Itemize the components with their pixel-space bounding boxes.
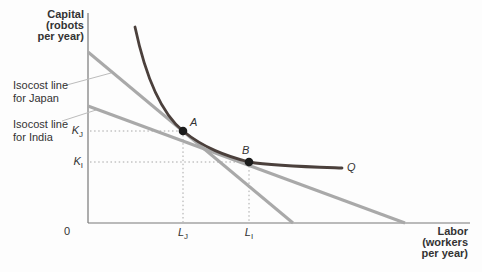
- x-axis-title: Labor (workers per year): [390, 226, 468, 259]
- isoquant-isocost-figure: Capital (robots per year) Labor (workers…: [0, 0, 482, 272]
- isoquant-q-label: Q: [347, 161, 356, 173]
- japan-callout-line: [63, 73, 111, 86]
- k-india-label: KI: [52, 155, 83, 167]
- k-japan-sub: J: [79, 130, 83, 139]
- isoquant-curve: [135, 27, 342, 168]
- isocost-japan-label: Isocost line for Japan: [13, 79, 68, 105]
- origin-label: 0: [60, 225, 74, 237]
- l-japan-sub: J: [184, 232, 188, 241]
- k-india-base: K: [73, 155, 80, 167]
- point-a-dot: [179, 127, 188, 136]
- k-india-sub: I: [81, 161, 83, 170]
- k-japan-label: KJ: [52, 124, 83, 136]
- point-a-label: A: [190, 116, 197, 128]
- l-japan-label: LJ: [168, 226, 198, 238]
- point-b-label: B: [242, 144, 249, 156]
- point-b-dot: [245, 158, 254, 167]
- y-axis-title: Capital (robots per year): [6, 9, 84, 42]
- l-india-label: LI: [234, 226, 264, 238]
- k-japan-base: K: [72, 124, 79, 136]
- l-india-sub: I: [251, 232, 253, 241]
